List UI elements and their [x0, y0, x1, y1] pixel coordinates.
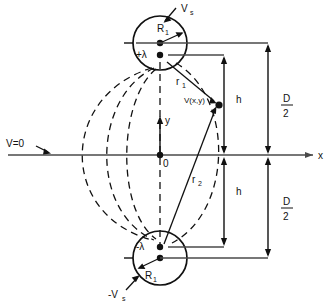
- dimension-h-upper-arrow-top: [221, 56, 227, 64]
- y-axis-arrowhead: [157, 116, 163, 124]
- dimension-d-upper-numerator: D: [283, 93, 290, 104]
- diagram-canvas: V s R 1 +λ r 1 V(x,y) y 0 V=0 x r 2 h h …: [0, 0, 335, 304]
- field-arc-outer-left: [82, 68, 152, 240]
- top-charge-label: +λ: [136, 49, 147, 60]
- field-point-group: [164, 62, 223, 244]
- dimension-h-lower-label: h: [236, 186, 242, 197]
- field-arc-inner-left: [127, 69, 156, 239]
- r2-arrowhead: [210, 107, 216, 115]
- field-point-label: V(x,y): [184, 96, 205, 105]
- bottom-radius-label: R: [145, 270, 152, 281]
- bottom-potential-arrowhead: [132, 275, 140, 282]
- ground-plane-arrowhead: [43, 148, 51, 154]
- dimension-d-lower-numerator: D: [283, 196, 290, 207]
- extension-lines: [136, 43, 268, 258]
- dimension-d-upper-arrow-top: [265, 44, 271, 52]
- ground-plane-label: V=0: [6, 138, 25, 149]
- origin-label: 0: [163, 158, 169, 169]
- field-arc-right: [172, 63, 219, 243]
- field-point-dot: [215, 101, 222, 108]
- x-axis-label: x: [318, 150, 323, 161]
- top-charge-dot: [157, 52, 163, 58]
- field-arc-mid-left: [107, 68, 154, 240]
- bottom-potential-label-sub: s: [122, 295, 126, 302]
- x-axis-arrowhead: [305, 152, 313, 158]
- dimension-d-upper: [265, 44, 271, 154]
- dimension-h-upper-label: h: [236, 94, 242, 105]
- top-potential-label-sub: s: [190, 9, 194, 16]
- bottom-potential-pointer: [126, 275, 140, 290]
- r2-label: r: [192, 174, 196, 185]
- dimension-d-lower: [265, 157, 271, 257]
- bottom-potential-label: -V: [108, 289, 118, 300]
- r2-label-sub: 2: [198, 180, 202, 187]
- dimension-d-lower-arrow-bottom: [265, 249, 271, 257]
- dimension-h-lower-arrow-bottom: [221, 238, 227, 246]
- r2-line: [164, 110, 215, 244]
- r1-label: r: [176, 76, 180, 87]
- dimension-d-lower-denominator: 2: [283, 211, 289, 222]
- top-radius-label: R: [157, 23, 164, 34]
- dimension-d-upper-arrow-bottom: [265, 146, 271, 154]
- dimension-d-lower-arrow-top: [265, 157, 271, 165]
- bottom-charge-dot: [157, 244, 163, 250]
- dimension-d-upper-denominator: 2: [283, 108, 289, 119]
- dimension-h-upper-arrow-bottom: [221, 146, 227, 154]
- y-axis-group: [157, 116, 163, 158]
- bottom-charge-label: -λ: [136, 241, 144, 252]
- electrostatics-diagram: V s R 1 +λ r 1 V(x,y) y 0 V=0 x r 2 h h …: [0, 0, 335, 304]
- dimension-h-lower: [221, 157, 227, 246]
- dimension-h-lower-arrow-top: [221, 157, 227, 165]
- top-potential-label: V: [181, 3, 188, 14]
- top-radius-label-sub: 1: [165, 29, 169, 36]
- y-axis-label: y: [165, 115, 170, 126]
- r1-label-sub: 1: [182, 82, 186, 89]
- ground-plane-pointer: [36, 146, 51, 155]
- bottom-radius-label-sub: 1: [153, 276, 157, 283]
